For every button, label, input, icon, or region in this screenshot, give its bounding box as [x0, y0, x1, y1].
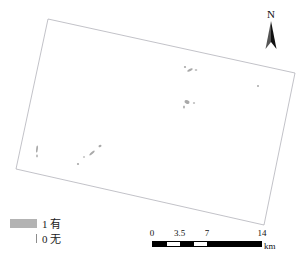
- map-figure: N 1 有 0 无 03.5714 km: [0, 0, 303, 267]
- patch-south-dot[interactable]: [77, 163, 79, 165]
- patch-east-dot[interactable]: [257, 85, 259, 87]
- legend-swatch-line: [10, 234, 37, 243]
- patch-north-ridge-b[interactable]: [195, 69, 198, 71]
- scale-bar: 03.5714 km: [152, 228, 277, 254]
- patch-center-east[interactable]: [193, 102, 195, 103]
- north-arrow-label: N: [258, 8, 284, 20]
- legend-item-0-label: 0 无: [42, 233, 61, 245]
- scale-tick-3: 14: [258, 228, 267, 238]
- scale-tick-2: 7: [205, 228, 210, 238]
- scale-tick-0: 0: [150, 228, 155, 238]
- scale-bar-track: [152, 241, 262, 247]
- patch-center-south[interactable]: [183, 105, 185, 108]
- patch-west-strip-b[interactable]: [36, 155, 38, 158]
- legend-item-1[interactable]: 1 有: [10, 216, 90, 231]
- patch-midsouth-dot[interactable]: [83, 156, 85, 158]
- legend-swatch-filled: [10, 219, 37, 228]
- scale-segment-1: [167, 242, 181, 246]
- legend: 1 有 0 无: [10, 216, 90, 246]
- scale-segment-0: [153, 242, 167, 246]
- scale-segment-3: [194, 242, 208, 246]
- scale-segment-2: [180, 242, 194, 246]
- legend-item-1-label: 1 有: [42, 218, 61, 230]
- scale-segment-4: [207, 242, 261, 246]
- legend-item-0[interactable]: 0 无: [10, 231, 90, 246]
- scale-tick-1: 3.5: [174, 228, 185, 238]
- north-arrow: N: [258, 8, 284, 54]
- patch-north-tip[interactable]: [184, 66, 186, 68]
- scale-bar-ticks: 03.5714: [152, 228, 277, 239]
- north-arrow-icon: [262, 20, 280, 50]
- scale-bar-unit: km: [264, 241, 276, 251]
